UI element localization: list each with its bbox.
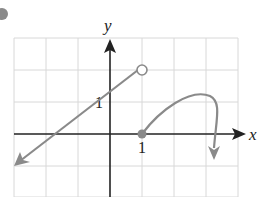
grid (14, 38, 238, 197)
closed-circle-endpoint (138, 130, 147, 139)
linear-piece (20, 70, 138, 161)
curved-piece-arrow-icon (208, 146, 220, 160)
y-axis-label: y (102, 16, 112, 35)
axes (14, 39, 246, 197)
piecewise-graph: x y 1 1 (0, 0, 265, 197)
x-axis-label: x (248, 125, 257, 144)
bullet-icon (0, 8, 8, 20)
x-tick-label: 1 (138, 139, 146, 156)
open-circle-endpoint (137, 65, 147, 75)
